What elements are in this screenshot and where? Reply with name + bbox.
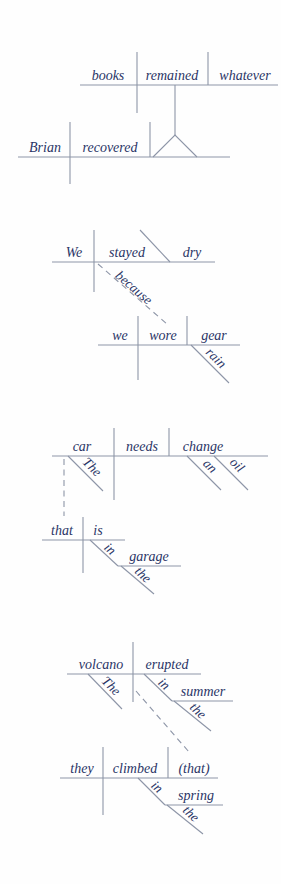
- clause-connector-dashed-line: [136, 691, 189, 752]
- complement-word: dry: [183, 245, 202, 260]
- verb-word: erupted: [146, 657, 190, 672]
- prep-object-word: spring: [178, 788, 214, 803]
- preposition-label: in: [148, 778, 166, 796]
- complement-word: whatever: [219, 68, 271, 83]
- diagram-relative-clause: car needs change The an oil that is in g…: [42, 428, 268, 594]
- sentence-diagrams-page: books remained whatever Brian recovered …: [0, 0, 281, 884]
- subject-word: volcano: [79, 657, 123, 672]
- verb-word: climbed: [113, 761, 158, 776]
- subject-word: that: [51, 523, 74, 538]
- modifier-label: The: [99, 673, 124, 698]
- verb-word: needs: [126, 439, 158, 454]
- modifier-label: the: [180, 803, 202, 825]
- modifier-label: the: [187, 700, 209, 722]
- modifier-label: The: [80, 454, 105, 479]
- subject-word: we: [112, 328, 128, 343]
- preposition-label: in: [155, 675, 173, 693]
- modifier-label: rain: [203, 345, 230, 372]
- prep-object-word: garage: [129, 549, 169, 564]
- subject-word: We: [66, 245, 83, 260]
- diagram-elliptical-clause: volcano erupted The in summer the they c…: [60, 642, 233, 834]
- understood-object-word: (that): [178, 761, 209, 777]
- verb-word: is: [93, 523, 103, 538]
- verb-word: wore: [149, 328, 176, 343]
- subject-word: car: [73, 439, 92, 454]
- object-word: change: [183, 439, 223, 454]
- verb-word: remained: [146, 68, 199, 83]
- diagram-noun-clause-pedestal: books remained whatever Brian recovered: [18, 52, 278, 184]
- modifier-label: the: [132, 564, 154, 586]
- conjunction-label: because: [113, 268, 156, 308]
- verb-word: recovered: [83, 140, 139, 155]
- diagrams-svg: books remained whatever Brian recovered …: [0, 0, 281, 884]
- diagram-adverb-clause: We stayed dry because we wore gear rain: [52, 230, 240, 383]
- preposition-label: in: [101, 540, 119, 558]
- pedestal-triangle: [153, 135, 197, 157]
- subject-word: Brian: [29, 140, 61, 155]
- object-word: gear: [201, 328, 227, 343]
- subject-word: books: [92, 68, 125, 83]
- prep-object-word: summer: [181, 684, 226, 699]
- verb-word: stayed: [109, 245, 146, 260]
- subject-word: they: [70, 761, 94, 776]
